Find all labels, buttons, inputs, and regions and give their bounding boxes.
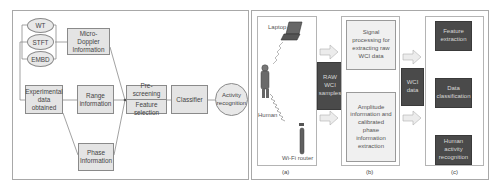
raw-wci-samples-box: RAW WCI samples (317, 62, 343, 110)
caption-c: (c) (451, 169, 458, 175)
wci-data-box: WCI data (401, 68, 424, 106)
human-activity-recognition-box: Human activity recognition (435, 135, 472, 165)
feature-extraction-box: Feature extraction (435, 21, 472, 51)
data-classification-box: Data classification (435, 78, 472, 108)
amplitude-phase-box: Amplitude information and calibrated pha… (346, 92, 396, 162)
caption-b: (b) (366, 169, 373, 175)
signal-processing-box: Signal processing for extracting raw WCI… (346, 20, 396, 70)
